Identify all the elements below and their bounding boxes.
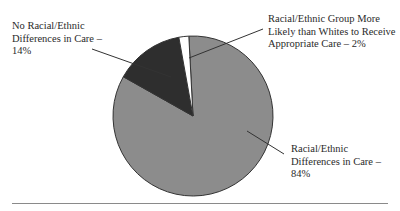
slice-label-no-differences: No Racial/Ethnic Differences in Care – 1… [12, 20, 122, 58]
slice-label-more-likely: Racial/Ethnic Group More Likely than Whi… [268, 13, 398, 51]
pie-slices [113, 36, 273, 196]
bottom-rule [12, 203, 388, 204]
slice-label-differences: Racial/Ethnic Differences in Care – 84% [291, 143, 381, 181]
